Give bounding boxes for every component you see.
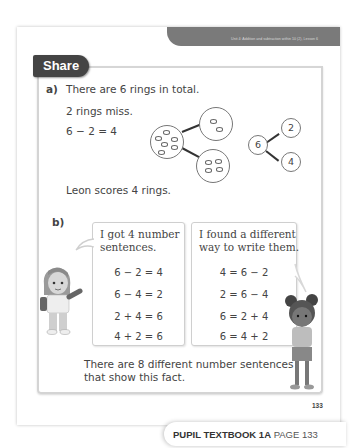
footer-page-label: PUPIL TEXTBOOK 1A PAGE 133 [164, 422, 346, 446]
unit-title: Unit 4: Addition and subtraction within … [231, 37, 318, 41]
footer-page: PAGE 133 [274, 429, 318, 440]
left-bubble-heading: I got 4 number sentences. [100, 228, 180, 254]
page-number: 133 [312, 402, 323, 409]
part-a-conclusion: Leon scores 4 rings. [66, 184, 171, 196]
footer-book-title: PUPIL TEXTBOOK 1A [173, 429, 271, 440]
part-number-circle-2: 4 [281, 152, 301, 172]
whole-number-circle: 6 [248, 135, 268, 155]
left-equation-2: 6 − 4 = 2 [93, 289, 184, 300]
right-equation-4: 6 = 4 + 2 [192, 331, 296, 342]
left-speech-bubble: I got 4 number sentences. 6 − 2 = 4 6 − … [92, 222, 185, 346]
part-a-line2: 2 rings miss. [66, 105, 133, 117]
share-section-tab: Share [33, 55, 89, 77]
right-equation-1: 4 = 6 − 2 [192, 267, 296, 278]
part-a-line1: There are 6 rings in total. [66, 83, 199, 95]
part-a-label: a) [46, 83, 58, 95]
right-equation-2: 2 = 6 − 4 [192, 289, 296, 300]
missed-rings-circle [199, 107, 233, 141]
unit-header-bar: Unit 4: Addition and subtraction within … [167, 27, 340, 46]
part-b-conclusion: There are 8 different number sentences t… [84, 358, 294, 384]
girl-character-illustration [34, 265, 84, 335]
part-number-circle-1: 2 [281, 118, 301, 138]
left-bubble-tail-icon [74, 238, 96, 252]
left-equation-4: 4 + 2 = 6 [93, 331, 184, 342]
left-equation-1: 6 − 2 = 4 [93, 267, 184, 278]
right-speech-bubble: I found a different way to write them. 4… [191, 222, 297, 346]
right-bubble-heading: I found a different way to write them. [199, 228, 299, 254]
whole-rings-circle [150, 125, 184, 159]
part-b-label: b) [52, 216, 64, 228]
left-equation-3: 2 + 4 = 6 [93, 311, 184, 322]
scored-rings-circle [196, 149, 230, 183]
right-equation-3: 6 = 2 + 4 [192, 311, 296, 322]
part-a-equation: 6 − 2 = 4 [66, 125, 117, 137]
